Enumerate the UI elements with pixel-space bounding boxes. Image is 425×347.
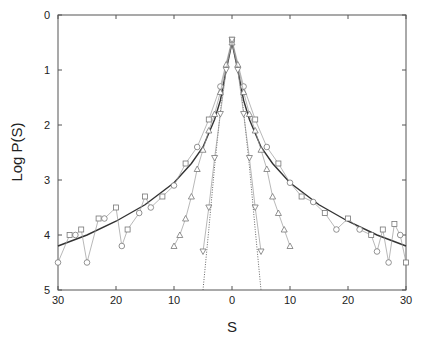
axis-ticks: 3020100102030012345 xyxy=(44,9,412,306)
plot-frame xyxy=(58,15,406,290)
gaussian-curve xyxy=(203,43,261,291)
y-tick-label: 1 xyxy=(44,64,50,76)
x-tick-label: 20 xyxy=(342,294,354,306)
triangles-line xyxy=(174,43,290,247)
y-axis-label: Log P(S) xyxy=(8,122,25,181)
x-tick-label: 0 xyxy=(229,294,235,306)
chart: 3020100102030012345 S Log P(S) xyxy=(0,0,425,347)
inverted-triangles-line xyxy=(203,40,261,252)
x-tick-label: 10 xyxy=(168,294,180,306)
y-tick-label: 4 xyxy=(44,229,50,241)
fit-curve xyxy=(58,43,406,247)
x-tick-label: 30 xyxy=(52,294,64,306)
y-tick-label: 0 xyxy=(44,9,50,21)
x-axis-label: S xyxy=(227,318,237,335)
y-tick-label: 2 xyxy=(44,119,50,131)
data-series xyxy=(55,37,408,290)
x-tick-label: 10 xyxy=(284,294,296,306)
y-tick-label: 3 xyxy=(44,174,50,186)
y-tick-label: 5 xyxy=(44,284,50,296)
x-tick-label: 30 xyxy=(400,294,412,306)
x-tick-label: 20 xyxy=(110,294,122,306)
circles-squares-line xyxy=(58,40,406,263)
